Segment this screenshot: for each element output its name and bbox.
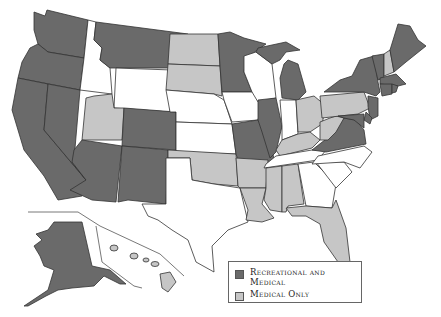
state-hi — [110, 245, 176, 292]
swatch-medical-icon — [235, 292, 244, 301]
us-map — [0, 0, 441, 317]
legend-item-recreational: Recreational and Medical — [235, 267, 355, 287]
legend-label-medical: Medical Only — [250, 289, 309, 299]
state-ny — [324, 56, 380, 96]
state-me — [390, 24, 426, 72]
state-ar — [236, 158, 268, 188]
state-in — [280, 100, 298, 140]
state-fl — [286, 200, 350, 262]
state-mi-lower — [280, 60, 306, 100]
swatch-recreational-icon — [235, 270, 244, 279]
legend-label-recreational: Recreational and Medical — [250, 267, 355, 287]
state-nm — [118, 146, 168, 204]
legend-item-medical: Medical Only — [235, 289, 355, 301]
state-ri — [392, 84, 398, 93]
state-ak — [24, 222, 126, 306]
state-ks — [176, 122, 236, 154]
state-nd — [168, 34, 220, 66]
state-ms — [264, 166, 282, 212]
state-wy — [114, 68, 172, 112]
state-ct — [380, 84, 392, 96]
legend: Recreational and Medical Medical Only — [228, 261, 362, 303]
state-co — [122, 108, 176, 150]
